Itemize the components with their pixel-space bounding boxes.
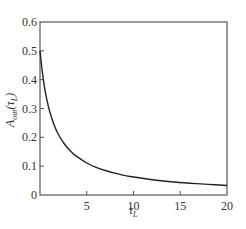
x-tick-label: 20 bbox=[221, 199, 233, 213]
y-tick-label: 0.1 bbox=[22, 159, 37, 173]
x-tick-label: 5 bbox=[84, 199, 90, 213]
plot-frame bbox=[40, 22, 227, 195]
y-tick-label: 0.2 bbox=[22, 130, 37, 144]
y-tick-label: 0 bbox=[31, 188, 37, 202]
axis-ticks bbox=[40, 51, 180, 195]
y-tick-label: 0.3 bbox=[22, 102, 37, 116]
y-tick-label: 0.6 bbox=[22, 15, 37, 29]
series-line bbox=[40, 51, 227, 186]
plot-border bbox=[40, 22, 227, 195]
y-tick-label: 0.5 bbox=[22, 44, 37, 58]
y-tick-label: 0.4 bbox=[22, 73, 37, 87]
y-axis-label: Aout(τL) bbox=[3, 93, 19, 128]
x-tick-label: 15 bbox=[174, 199, 186, 213]
data-series bbox=[40, 51, 227, 186]
chart: 510152000.10.20.30.40.50.6 τL Aout(τL) bbox=[0, 0, 246, 229]
